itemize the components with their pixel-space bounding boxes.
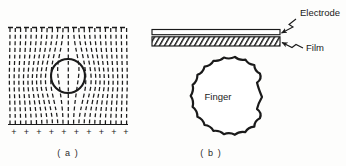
field-lines	[9, 28, 127, 124]
figure-root: + + + + + + + + + + ( a ) Electrode	[0, 0, 346, 166]
panel-b-caption: ( b )	[200, 148, 222, 158]
film-label: Film	[306, 42, 324, 53]
electrode-layer	[152, 30, 280, 35]
charge-plus: +	[123, 127, 128, 137]
charge-plus: +	[36, 127, 41, 137]
charge-plus: +	[99, 127, 104, 137]
panel-b: Electrode Film Finger ( b )	[152, 7, 340, 158]
charge-plus: +	[74, 127, 79, 137]
film-layer	[152, 37, 280, 46]
electrode-leader-line	[282, 19, 297, 33]
finger-label: Finger	[205, 91, 232, 102]
electrode-label: Electrode	[300, 7, 340, 18]
charge-plus: +	[49, 127, 54, 137]
charge-row: + + + + + + + + + +	[11, 127, 128, 137]
charge-plus: +	[86, 127, 91, 137]
panel-a: + + + + + + + + + + ( a )	[8, 28, 129, 159]
film-leader-line	[282, 43, 303, 49]
charge-plus: +	[61, 127, 66, 137]
technical-figure: + + + + + + + + + + ( a ) Electrode	[0, 0, 346, 166]
panel-a-caption: ( a )	[57, 148, 79, 158]
charge-plus: +	[11, 127, 16, 137]
charge-plus: +	[24, 127, 29, 137]
charge-plus: +	[111, 127, 116, 137]
